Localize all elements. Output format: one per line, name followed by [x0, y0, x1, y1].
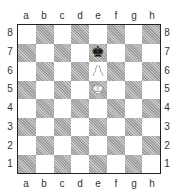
file-label-b: b [35, 10, 53, 21]
file-label-c: c [53, 178, 71, 189]
square-f5[interactable] [107, 81, 125, 100]
square-h4[interactable] [142, 99, 160, 118]
square-d6[interactable] [71, 62, 89, 81]
square-d4[interactable] [71, 99, 89, 118]
square-e1[interactable] [89, 155, 107, 174]
chess-board: ♚♟♚ [17, 24, 161, 174]
square-a8[interactable] [18, 25, 36, 44]
square-f2[interactable] [107, 136, 125, 155]
rank-label-5: 5 [5, 80, 15, 99]
square-h7[interactable] [142, 44, 160, 63]
square-h8[interactable] [142, 25, 160, 44]
square-b2[interactable] [36, 136, 54, 155]
file-label-b: b [35, 178, 53, 189]
square-a1[interactable] [18, 155, 36, 174]
file-label-e: e [89, 178, 107, 189]
square-c8[interactable] [54, 25, 72, 44]
square-f3[interactable] [107, 118, 125, 137]
rank-label-4: 4 [162, 99, 172, 118]
file-label-h: h [143, 178, 161, 189]
square-a5[interactable] [18, 81, 36, 100]
square-e3[interactable] [89, 118, 107, 137]
square-h6[interactable] [142, 62, 160, 81]
file-label-e: e [89, 10, 107, 21]
square-a6[interactable] [18, 62, 36, 81]
rank-label-8: 8 [162, 24, 172, 43]
rank-label-3: 3 [5, 118, 15, 137]
file-label-c: c [53, 10, 71, 21]
file-label-d: d [71, 10, 89, 21]
square-d5[interactable] [71, 81, 89, 100]
square-h2[interactable] [142, 136, 160, 155]
square-e2[interactable] [89, 136, 107, 155]
file-label-a: a [17, 10, 35, 21]
square-d3[interactable] [71, 118, 89, 137]
square-b8[interactable] [36, 25, 54, 44]
file-label-g: g [125, 178, 143, 189]
square-b5[interactable] [36, 81, 54, 100]
square-e8[interactable] [89, 25, 107, 44]
file-label-f: f [107, 10, 125, 21]
square-b7[interactable] [36, 44, 54, 63]
square-b3[interactable] [36, 118, 54, 137]
square-c2[interactable] [54, 136, 72, 155]
file-label-f: f [107, 178, 125, 189]
file-label-g: g [125, 10, 143, 21]
file-label-a: a [17, 178, 35, 189]
square-c7[interactable] [54, 44, 72, 63]
rank-label-3: 3 [162, 118, 172, 137]
rank-label-4: 4 [5, 99, 15, 118]
rank-label-8: 8 [5, 24, 15, 43]
file-label-h: h [143, 10, 161, 21]
square-f8[interactable] [107, 25, 125, 44]
file-label-d: d [71, 178, 89, 189]
square-g4[interactable] [125, 99, 143, 118]
square-a7[interactable] [18, 44, 36, 63]
square-g8[interactable] [125, 25, 143, 44]
square-g6[interactable] [125, 62, 143, 81]
square-g7[interactable] [125, 44, 143, 63]
rank-label-7: 7 [5, 43, 15, 62]
square-d8[interactable] [71, 25, 89, 44]
square-f6[interactable] [107, 62, 125, 81]
square-c3[interactable] [54, 118, 72, 137]
square-d2[interactable] [71, 136, 89, 155]
square-e5[interactable]: ♚ [89, 81, 107, 100]
square-h5[interactable] [142, 81, 160, 100]
square-g2[interactable] [125, 136, 143, 155]
rank-label-1: 1 [162, 155, 172, 174]
rank-label-2: 2 [5, 137, 15, 156]
square-d1[interactable] [71, 155, 89, 174]
square-b1[interactable] [36, 155, 54, 174]
square-g3[interactable] [125, 118, 143, 137]
square-e7[interactable]: ♚ [89, 44, 107, 63]
square-f4[interactable] [107, 99, 125, 118]
white-pawn-icon[interactable]: ♟ [91, 64, 104, 79]
square-g5[interactable] [125, 81, 143, 100]
square-f7[interactable] [107, 44, 125, 63]
rank-label-2: 2 [162, 137, 172, 156]
rank-label-6: 6 [5, 62, 15, 81]
square-c4[interactable] [54, 99, 72, 118]
square-c1[interactable] [54, 155, 72, 174]
square-b6[interactable] [36, 62, 54, 81]
square-h1[interactable] [142, 155, 160, 174]
square-a3[interactable] [18, 118, 36, 137]
rank-label-6: 6 [162, 62, 172, 81]
square-c5[interactable] [54, 81, 72, 100]
square-c6[interactable] [54, 62, 72, 81]
square-e6[interactable]: ♟ [89, 62, 107, 81]
square-g1[interactable] [125, 155, 143, 174]
white-king-icon[interactable]: ♚ [91, 82, 104, 97]
rank-label-7: 7 [162, 43, 172, 62]
rank-label-1: 1 [5, 155, 15, 174]
square-f1[interactable] [107, 155, 125, 174]
square-h3[interactable] [142, 118, 160, 137]
square-d7[interactable] [71, 44, 89, 63]
square-b4[interactable] [36, 99, 54, 118]
square-e4[interactable] [89, 99, 107, 118]
square-a4[interactable] [18, 99, 36, 118]
square-a2[interactable] [18, 136, 36, 155]
black-king-icon[interactable]: ♚ [91, 45, 104, 60]
rank-label-5: 5 [162, 80, 172, 99]
